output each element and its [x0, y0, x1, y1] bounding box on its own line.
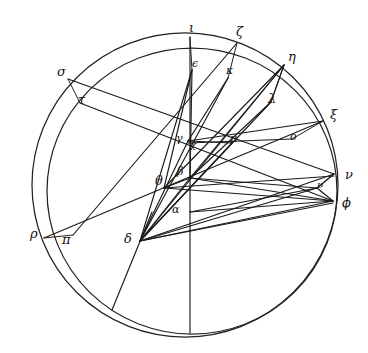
- label-pi: π: [62, 233, 71, 246]
- geometric-figure: ι ζ η ϵ κ σ λ τ ξ ο γ μ χ ν β θ υ ϕ α ρ …: [0, 0, 368, 353]
- label-upsilon: υ: [317, 180, 323, 190]
- label-alpha: α: [172, 204, 179, 215]
- segment-gamma-to-xi: [188, 121, 323, 141]
- label-xi: ξ: [330, 108, 337, 121]
- label-delta: δ: [124, 232, 132, 245]
- label-chi: χ: [190, 140, 196, 150]
- label-kappa: κ: [226, 65, 233, 76]
- label-iota: ι: [189, 21, 194, 34]
- label-gamma: γ: [176, 133, 183, 144]
- label-eta: η: [288, 50, 296, 63]
- label-phi: ϕ: [342, 196, 351, 209]
- label-beta: β: [177, 166, 183, 177]
- segment-alpha-to-phi: [190, 201, 333, 212]
- label-theta: θ: [155, 174, 163, 187]
- label-epsilon: ϵ: [192, 58, 198, 69]
- segment-delta-to-nu: [140, 174, 334, 241]
- segment-beta-to-upsilon: [190, 178, 317, 188]
- segment-sigma-to-nu: [68, 79, 334, 174]
- label-mu: μ: [230, 133, 237, 144]
- label-lambda: λ: [268, 92, 276, 105]
- segment-delta-to-upsilon: [140, 188, 317, 241]
- label-tau: τ: [78, 93, 85, 106]
- segment-kappa-to-gamma: [188, 78, 228, 141]
- label-zeta: ζ: [236, 25, 243, 38]
- label-nu: ν: [345, 168, 353, 181]
- figure-canvas: [0, 0, 368, 353]
- label-omicron: ο: [290, 131, 297, 142]
- segment-delta-lower-extension: [112, 212, 152, 310]
- label-sigma: σ: [57, 65, 66, 78]
- segment-delta-to-epsilon: [140, 70, 192, 241]
- label-rho: ρ: [30, 227, 38, 240]
